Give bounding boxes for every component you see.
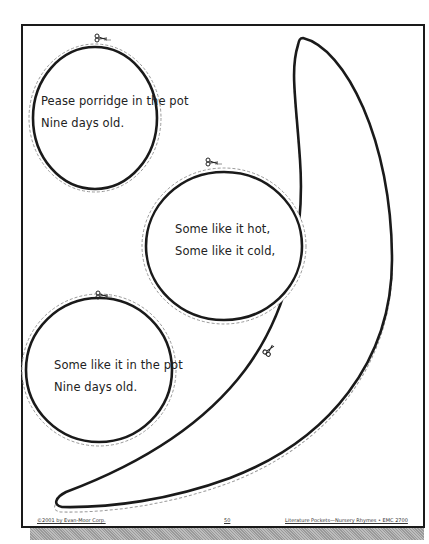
scissors-icon bbox=[95, 34, 111, 42]
cutout-artwork bbox=[0, 0, 429, 544]
footer-copyright: ©2001 by Evan-Moor Corp. bbox=[37, 517, 106, 523]
footer-series: Literature Pockets—Nursery Rhymes • EMC … bbox=[285, 517, 408, 523]
verse-line: Some like it hot, bbox=[175, 218, 275, 240]
footer-page-number: 50 bbox=[224, 517, 230, 523]
verse-line: Pease porridge in the pot bbox=[41, 90, 189, 112]
verse-line: Nine days old. bbox=[54, 376, 183, 398]
scissors-icon bbox=[206, 158, 222, 166]
verse-line: Some like it cold, bbox=[175, 240, 275, 262]
verse-circle-3: Some like it in the pot Nine days old. bbox=[54, 354, 183, 398]
verse-circle-2: Some like it hot, Some like it cold, bbox=[175, 218, 275, 262]
verse-line: Nine days old. bbox=[41, 112, 189, 134]
verse-line: Some like it in the pot bbox=[54, 354, 183, 376]
verse-circle-1: Pease porridge in the pot Nine days old. bbox=[41, 90, 189, 134]
